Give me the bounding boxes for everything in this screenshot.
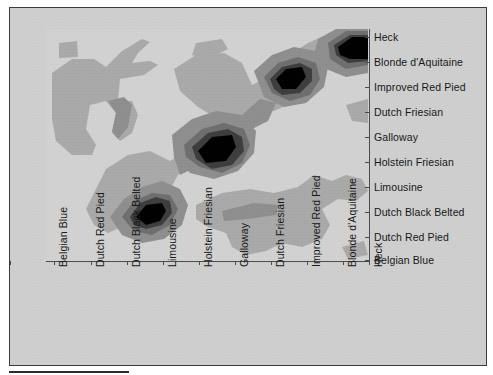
y-tick-improved-red-pied — [365, 87, 370, 88]
y-axis-label-galloway: Galloway — [374, 132, 418, 143]
x-axis-label-dutch-black-belted: Dutch Black Belted — [131, 176, 142, 267]
x-axis-label-holstein-friesian: Holstein Friesian — [203, 187, 214, 267]
y-axis-label-dutch-friesian: Dutch Friesian — [374, 107, 443, 118]
y-tick-dutch-black-belted — [365, 212, 370, 213]
x-tick-dutch-black-belted — [127, 261, 128, 265]
x-tick-dutch-red-pied-2 — [91, 261, 92, 265]
y-tick-belgian-blue — [365, 260, 370, 261]
x-tick-blonde-daquitaine — [343, 261, 344, 265]
x-tick-belgian-blue — [54, 261, 55, 265]
x-tick-dutch-red-pied — [10, 261, 11, 265]
y-tick-blonde-daquitaine — [365, 62, 370, 63]
y-axis-label-dutch-black-belted: Dutch Black Belted — [374, 207, 465, 218]
y-axis-line — [369, 29, 370, 262]
x-tick-limousine — [163, 261, 164, 265]
y-tick-holstein-friesian — [365, 162, 370, 163]
y-axis-label-holstein-friesian: Holstein Friesian — [374, 157, 454, 168]
x-tick-dutch-friesian — [271, 261, 272, 265]
chart-panel: Heck Blonde d'Aquitaine Improved Red Pie… — [9, 7, 487, 366]
x-tick-holstein-friesian — [199, 261, 200, 265]
y-axis-label-heck: Heck — [374, 32, 398, 43]
x-axis-label-dutch-red-pied: Dutch Red Pied — [95, 192, 106, 267]
y-axis-label-dutch-red-pied: Dutch Red Pied — [374, 232, 449, 243]
x-tick-improved-red-pied — [307, 261, 308, 265]
x-axis-label-belgian-blue: Belgian Blue — [58, 207, 69, 267]
figure-container: Heck Blonde d'Aquitaine Improved Red Pie… — [0, 0, 493, 375]
x-axis-label-improved-red-pied: Improved Red Pied — [311, 175, 322, 267]
x-axis-label-heck: Heck — [373, 243, 384, 267]
x-axis-label-blonde-daquitaine: Blonde d'Aquitaine — [347, 178, 358, 267]
y-axis-label-improved-red-pied: Improved Red Pied — [374, 82, 466, 93]
x-axis-label-dutch-friesian: Dutch Friesian — [275, 198, 286, 267]
y-tick-dutch-red-pied — [365, 237, 370, 238]
y-axis-label-blonde-daquitaine: Blonde d'Aquitaine — [374, 57, 463, 68]
x-tick-galloway — [235, 261, 236, 265]
y-axis-label-limousine: Limousine — [374, 182, 423, 193]
x-tick-heck — [369, 261, 370, 265]
y-tick-heck — [365, 37, 370, 38]
y-tick-galloway — [365, 137, 370, 138]
bottom-rule — [9, 371, 129, 373]
y-tick-dutch-friesian — [365, 112, 370, 113]
x-axis-label-limousine: Limousine — [167, 218, 178, 267]
y-tick-limousine — [365, 187, 370, 188]
x-axis-label-galloway: Galloway — [239, 223, 250, 267]
